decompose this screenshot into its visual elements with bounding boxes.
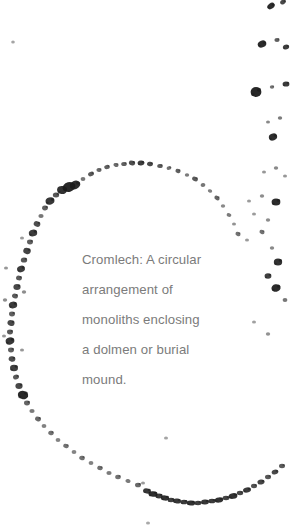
ring-stone-mark-fleck (227, 496, 230, 498)
ring-stone-mark-fleck (160, 164, 162, 166)
ring-stone-mark (104, 164, 110, 169)
ring-stone-mark-fleck (66, 444, 68, 446)
ring-stone-mark-fleck (12, 321, 15, 323)
ring-stone-mark (223, 496, 230, 500)
scatter-stone-mark (271, 283, 281, 292)
scatter-stone-mark-fleck (272, 203, 275, 205)
ring-stone-mark-fleck (51, 431, 53, 433)
ring-stone-mark-fleck (14, 302, 17, 305)
ring-stone-mark-fleck (168, 500, 170, 501)
scatter-stone-mark (259, 229, 265, 235)
ring-stone-mark (87, 171, 94, 177)
scatter-stone-mark (266, 332, 270, 335)
ring-stone-mark-fleck (34, 230, 37, 233)
ring-stone-mark (175, 168, 181, 173)
ring-stone-mark (187, 500, 196, 506)
ring-stone-mark (42, 424, 47, 428)
ring-stone-mark (168, 498, 175, 502)
scatter-stone-mark-fleck (274, 134, 277, 137)
ring-stone-mark (17, 390, 29, 401)
ring-stone-mark-fleck (195, 503, 197, 504)
ring-stone-mark-fleck (283, 464, 285, 466)
ring-stone-mark-fleck (217, 196, 219, 198)
scatter-stone-mark (260, 194, 264, 197)
ring-stone-mark (28, 229, 37, 237)
ring-stone-mark-fleck (178, 499, 181, 501)
ring-stone-mark (81, 177, 86, 181)
ring-stone-mark-fleck (262, 480, 265, 482)
scatter-stone-mark (262, 170, 266, 173)
ring-stone-mark-fleck (248, 488, 251, 490)
scatter-stone-mark (251, 87, 262, 97)
ring-stone-mark (13, 284, 20, 290)
ring-stone-mark (148, 491, 158, 497)
ring-stone-mark-fleck (51, 198, 54, 201)
ring-stone-mark (106, 471, 111, 475)
ring-stone-mark (89, 461, 94, 465)
ring-stone-mark-fleck (148, 489, 151, 491)
ring-stone-mark-fleck (28, 249, 31, 251)
ring-stone-mark (155, 494, 162, 499)
ring-stone-mark (221, 204, 225, 207)
ring-stone-mark-fleck (11, 330, 13, 332)
ring-stone-mark (10, 365, 18, 371)
scatter-stone-mark (252, 212, 256, 215)
ring-stone-mark-fleck (255, 484, 257, 486)
ring-stone-mark (56, 438, 61, 442)
ring-stone-mark (208, 499, 215, 504)
scatter-stone-mark-fleck (272, 4, 275, 6)
scatter-stone-mark (164, 436, 168, 439)
ring-stone-mark (5, 336, 15, 345)
ring-stone-mark (24, 401, 30, 406)
scatter-stone-mark (272, 198, 281, 205)
ring-stone-mark-fleck (138, 163, 140, 164)
caption-text: Cromlech: A circular arrangement of mono… (82, 245, 257, 395)
ring-stone-mark (128, 160, 136, 167)
ring-stone-mark (53, 193, 59, 198)
ring-stone-mark-fleck (161, 499, 164, 501)
ring-stone-mark (61, 181, 76, 194)
ring-stone-mark (125, 479, 131, 484)
scatter-stone-mark (2, 334, 6, 337)
ring-stone-mark (72, 450, 77, 454)
ring-stone-mark (38, 214, 43, 218)
ring-stone-mark-fleck (124, 162, 126, 164)
scatter-stone-mark-fleck (277, 199, 280, 202)
ring-stone-mark-fleck (276, 470, 279, 472)
scatter-stone-mark-fleck (267, 7, 269, 9)
scatter-stone-mark-fleck (263, 41, 266, 44)
scatter-stone-mark-fleck (251, 93, 254, 96)
ring-stone-mark (42, 205, 48, 210)
ring-stone-mark-fleck (172, 498, 175, 500)
ring-stone-mark (166, 166, 171, 171)
ring-stone-mark (143, 488, 152, 495)
ring-stone-mark-fleck (24, 392, 28, 395)
scatter-stone-mark (3, 298, 7, 302)
scatter-stone-mark (270, 85, 274, 89)
ring-stone-mark-fleck (99, 168, 101, 170)
ring-stone-mark (279, 464, 285, 468)
ring-stone-mark-fleck (12, 348, 14, 350)
ring-stone-mark-fleck (57, 193, 59, 195)
ring-stone-mark-fleck (13, 312, 15, 314)
ring-stone-mark (191, 176, 198, 183)
ring-stone-mark-fleck (13, 357, 16, 359)
ring-stone-mark-fleck (58, 191, 61, 193)
ring-stone-mark-fleck (116, 163, 118, 165)
ring-stone-mark (8, 301, 18, 309)
ring-stone-mark-fleck (213, 499, 216, 501)
ring-stone-mark-fleck (185, 500, 188, 502)
ring-stone-mark-fleck (199, 501, 202, 503)
ring-stone-mark-fleck (192, 501, 195, 503)
ring-stone-mark (208, 189, 213, 193)
scatter-stone-mark (22, 290, 26, 294)
scatter-stone-mark (274, 166, 278, 169)
ring-stone-mark (147, 161, 154, 167)
ring-stone-mark (7, 319, 16, 327)
scatter-stone-mark (274, 38, 279, 42)
scatter-stone-mark-fleck (269, 274, 272, 276)
scatter-stone-mark-fleck (272, 289, 275, 291)
ring-stone-mark-fleck (149, 495, 152, 497)
ring-stone-mark-fleck (269, 475, 271, 477)
ring-stone-mark-fleck (154, 492, 157, 494)
